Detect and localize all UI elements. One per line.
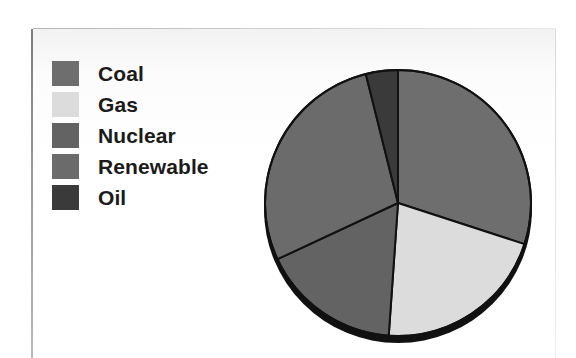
legend-swatch-renewable [52,154,79,179]
pie-slice-group [265,70,531,336]
legend-label-gas: Gas [98,94,138,115]
chart-legend: Coal Gas Nuclear Renewable Oil [52,58,252,213]
legend-swatch-coal [52,61,79,86]
legend-swatch-nuclear [52,123,79,148]
pie-chart [252,50,542,355]
legend-label-coal: Coal [98,63,144,84]
legend-item-gas[interactable]: Gas [52,89,252,120]
legend-item-nuclear[interactable]: Nuclear [52,120,252,151]
pie-chart-svg [252,50,542,355]
legend-label-renewable: Renewable [98,156,209,177]
pie-chart-screenshot: Coal Gas Nuclear Renewable Oil [0,0,576,358]
legend-swatch-oil [52,185,79,210]
legend-label-oil: Oil [98,187,126,208]
legend-item-renewable[interactable]: Renewable [52,151,252,182]
legend-item-oil[interactable]: Oil [52,182,252,213]
legend-item-coal[interactable]: Coal [52,58,252,89]
legend-swatch-gas [52,92,79,117]
legend-label-nuclear: Nuclear [98,125,176,146]
